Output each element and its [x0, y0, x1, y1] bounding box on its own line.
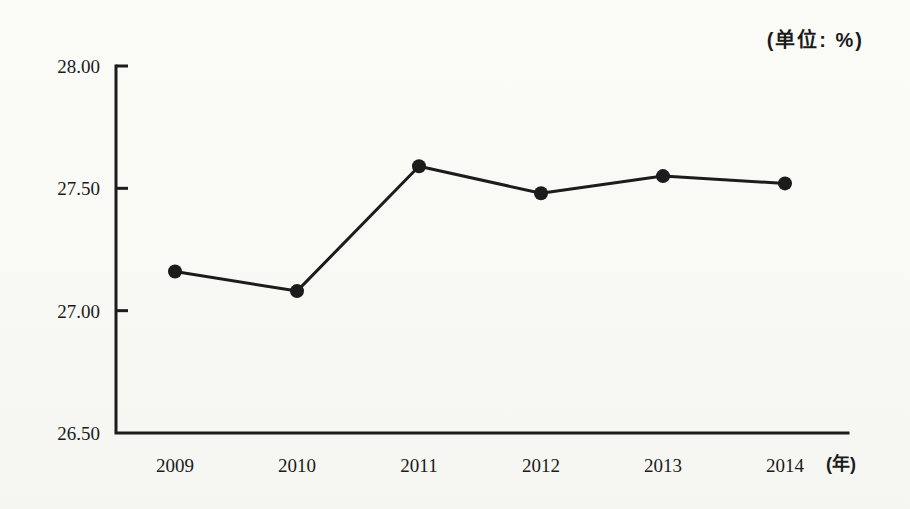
- y-axis-tick-label: 27.00: [57, 301, 100, 322]
- data-point-2010: [290, 284, 304, 298]
- x-axis-label-2012: 2012: [522, 455, 560, 476]
- x-axis-label-2009: 2009: [156, 455, 194, 476]
- data-point-2014: [778, 176, 792, 190]
- y-axis-tick-label: 26.50: [57, 423, 100, 444]
- x-axis-unit-label: (年): [826, 453, 856, 474]
- unit-note-label: (单位: %): [767, 24, 864, 53]
- axis-lines: [116, 66, 848, 433]
- data-point-2009: [168, 265, 182, 279]
- x-axis-label-2010: 2010: [278, 455, 316, 476]
- data-point-2011: [412, 159, 426, 173]
- line-chart: 28.0027.5027.0026.5020092010201120122013…: [0, 0, 910, 509]
- y-axis-tick-label: 27.50: [57, 178, 100, 199]
- x-axis-label-2014: 2014: [766, 455, 805, 476]
- data-line: [175, 166, 785, 291]
- chart-page: (单位: %) 28.0027.5027.0026.50200920102011…: [0, 0, 910, 509]
- data-point-2013: [656, 169, 670, 183]
- y-axis-tick-label: 28.00: [57, 56, 100, 77]
- x-axis-label-2013: 2013: [644, 455, 682, 476]
- x-axis-label-2011: 2011: [400, 455, 437, 476]
- data-point-2012: [534, 186, 548, 200]
